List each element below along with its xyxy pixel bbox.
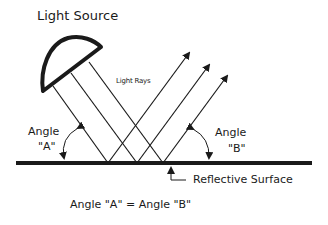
diagram-graphics bbox=[0, 0, 328, 225]
angle-b-arc bbox=[193, 129, 209, 158]
reflected-rays bbox=[108, 53, 227, 163]
angle-b-label: Angle bbox=[215, 127, 246, 138]
light-source-label: Light Source bbox=[37, 9, 118, 22]
arrowhead-icon bbox=[163, 76, 227, 163]
light-rays-label: Light Rays bbox=[116, 78, 150, 85]
lamp-icon bbox=[42, 37, 101, 91]
angle-a-arc bbox=[63, 128, 78, 158]
angle-a-label: Angle bbox=[28, 126, 59, 137]
angle-b-letter: "B" bbox=[228, 143, 246, 154]
reflection-diagram: Light Source Light Rays Angle "A" Angle … bbox=[0, 0, 328, 225]
equation-label: Angle "A" = Angle "B" bbox=[70, 199, 191, 210]
surface-pointer bbox=[171, 168, 186, 180]
reflective-surface bbox=[16, 161, 312, 165]
reflective-surface-label: Reflective Surface bbox=[193, 174, 293, 185]
angle-a-letter: "A" bbox=[38, 141, 56, 152]
